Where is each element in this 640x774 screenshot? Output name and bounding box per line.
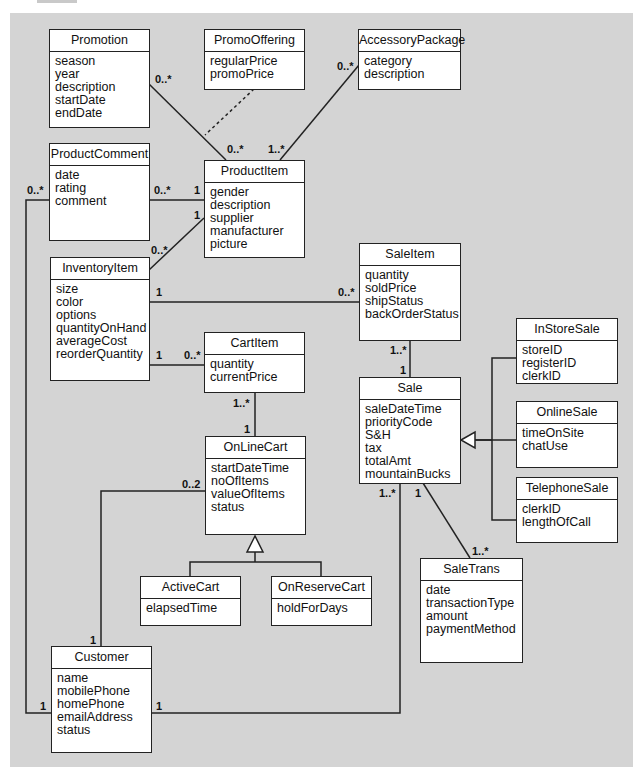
class-onreservecart[interactable]: OnReserveCart holdForDays bbox=[271, 576, 372, 626]
class-name: OnLineCart bbox=[206, 437, 305, 459]
multiplicity-label: 0..* bbox=[151, 244, 168, 256]
attribute-list: date rating comment bbox=[50, 166, 149, 208]
class-name: ProductComment bbox=[50, 144, 149, 166]
assoc-promotion-productitem bbox=[149, 84, 226, 160]
class-name: Sale bbox=[360, 378, 460, 400]
class-sale[interactable]: Sale saleDateTime priorityCode S&H tax t… bbox=[359, 377, 461, 484]
class-name: TelephoneSale bbox=[517, 478, 617, 500]
class-onlinesale[interactable]: OnlineSale timeOnSite chatUse bbox=[516, 401, 618, 468]
class-activecart[interactable]: ActiveCart elapsedTime bbox=[140, 576, 241, 626]
attribute: currentPrice bbox=[210, 371, 304, 384]
multiplicity-label: 1 bbox=[156, 700, 162, 712]
attribute: status bbox=[57, 724, 151, 737]
class-name: PromoOffering bbox=[205, 30, 304, 52]
class-productcomment[interactable]: ProductComment date rating comment bbox=[49, 143, 150, 241]
attribute: chatUse bbox=[522, 440, 617, 453]
class-inventoryitem[interactable]: InventoryItem size color options quantit… bbox=[50, 257, 150, 381]
multiplicity-label: 0..* bbox=[227, 143, 244, 155]
multiplicity-label: 0..2 bbox=[182, 478, 200, 490]
attribute: comment bbox=[55, 195, 149, 208]
attribute-list: gender description supplier manufacturer… bbox=[205, 183, 304, 251]
attribute: lengthOfCall bbox=[522, 516, 617, 529]
generalization-arrow-cart bbox=[247, 536, 263, 552]
attribute-list: size color options quantityOnHand averag… bbox=[51, 280, 149, 361]
attribute-list: startDateTime noOfItems valueOfItems sta… bbox=[206, 459, 305, 514]
multiplicity-label: 1..* bbox=[233, 397, 250, 409]
multiplicity-label: 0..* bbox=[27, 184, 44, 196]
attribute-list: clerkID lengthOfCall bbox=[517, 500, 617, 529]
class-name: ProductItem bbox=[205, 161, 304, 183]
multiplicity-label: 1 bbox=[400, 364, 406, 376]
multiplicity-label: 1..* bbox=[390, 344, 407, 356]
multiplicity-label: 1 bbox=[90, 634, 96, 646]
class-name: ActiveCart bbox=[141, 577, 240, 599]
attribute-list: quantity soldPrice shipStatus backOrderS… bbox=[360, 266, 460, 321]
attribute: promoPrice bbox=[210, 68, 304, 81]
multiplicity-label: 0..* bbox=[338, 286, 355, 298]
multiplicity-label: 1 bbox=[156, 286, 162, 298]
attribute-list: storeID registerID clerkID bbox=[517, 341, 617, 383]
attribute: elapsedTime bbox=[146, 602, 240, 615]
attribute-list: quantity currentPrice bbox=[205, 355, 304, 384]
attribute-list: saleDateTime priorityCode S&H tax totalA… bbox=[360, 400, 460, 481]
class-name: SaleItem bbox=[360, 244, 460, 266]
class-name: AccessoryPackage bbox=[359, 30, 460, 52]
multiplicity-label: 1 bbox=[194, 184, 200, 196]
multiplicity-label: 1..* bbox=[472, 545, 489, 557]
class-instoresale[interactable]: InStoreSale storeID registerID clerkID bbox=[516, 318, 618, 384]
class-name: SaleTrans bbox=[421, 559, 522, 581]
gen-branch-carts bbox=[190, 562, 321, 576]
assoc-sale-saletrans bbox=[423, 483, 470, 558]
class-customer[interactable]: Customer name mobilePhone homePhone emai… bbox=[51, 646, 152, 753]
class-promotion[interactable]: Promotion season year description startD… bbox=[49, 29, 150, 128]
attribute-list: regularPrice promoPrice bbox=[205, 52, 304, 81]
class-saleitem[interactable]: SaleItem quantity soldPrice shipStatus b… bbox=[359, 243, 461, 341]
class-accessorypackage[interactable]: AccessoryPackage category description bbox=[358, 29, 461, 90]
gen-branch-sales bbox=[492, 358, 516, 520]
attribute: holdForDays bbox=[277, 602, 371, 615]
attribute: description bbox=[364, 68, 460, 81]
attribute-list: season year description startDate endDat… bbox=[50, 52, 149, 120]
attribute: endDate bbox=[55, 107, 149, 120]
multiplicity-label: 1 bbox=[40, 700, 46, 712]
class-saletrans[interactable]: SaleTrans date transactionType amount pa… bbox=[420, 558, 523, 663]
multiplicity-label: 1..* bbox=[379, 487, 396, 499]
multiplicity-label: 1 bbox=[415, 487, 421, 499]
attribute: mountainBucks bbox=[365, 468, 460, 481]
attribute-list: date transactionType amount paymentMetho… bbox=[421, 581, 522, 636]
multiplicity-label: 1 bbox=[244, 423, 250, 435]
attribute-list: name mobilePhone homePhone emailAddress … bbox=[52, 669, 151, 737]
attribute-list: holdForDays bbox=[272, 599, 371, 615]
multiplicity-label: 1..* bbox=[268, 143, 285, 155]
attribute: picture bbox=[210, 238, 304, 251]
class-promooffering[interactable]: PromoOffering regularPrice promoPrice bbox=[204, 29, 305, 90]
class-name: CartItem bbox=[205, 333, 304, 355]
attribute-list: timeOnSite chatUse bbox=[517, 424, 617, 453]
attribute: backOrderStatus bbox=[365, 308, 460, 321]
multiplicity-label: 0..* bbox=[337, 60, 354, 72]
multiplicity-label: 1 bbox=[194, 209, 200, 221]
multiplicity-label: 0..* bbox=[154, 184, 171, 196]
attribute: paymentMethod bbox=[426, 623, 522, 636]
class-productitem[interactable]: ProductItem gender description supplier … bbox=[204, 160, 305, 258]
class-name: Customer bbox=[52, 647, 151, 669]
attribute-list: elapsedTime bbox=[141, 599, 240, 615]
attribute-list: category description bbox=[359, 52, 460, 81]
multiplicity-label: 0..* bbox=[155, 73, 172, 85]
attribute: clerkID bbox=[522, 370, 617, 383]
attribute: status bbox=[211, 501, 305, 514]
class-name: Promotion bbox=[50, 30, 149, 52]
class-name: OnReserveCart bbox=[272, 577, 371, 599]
class-name: OnlineSale bbox=[517, 402, 617, 424]
multiplicity-label: 0..* bbox=[184, 349, 201, 361]
class-telephonesale[interactable]: TelephoneSale clerkID lengthOfCall bbox=[516, 477, 618, 543]
generalization-arrow-sale bbox=[461, 432, 475, 448]
class-cartitem[interactable]: CartItem quantity currentPrice bbox=[204, 332, 305, 393]
class-name: InventoryItem bbox=[51, 258, 149, 280]
attribute: reorderQuantity bbox=[56, 348, 149, 361]
assoc-customer-comment bbox=[26, 200, 51, 713]
class-onlinecart[interactable]: OnLineCart startDateTime noOfItems value… bbox=[205, 436, 306, 535]
assoc-class-promooffering bbox=[205, 89, 254, 135]
multiplicity-label: 1 bbox=[156, 349, 162, 361]
class-name: InStoreSale bbox=[517, 319, 617, 341]
